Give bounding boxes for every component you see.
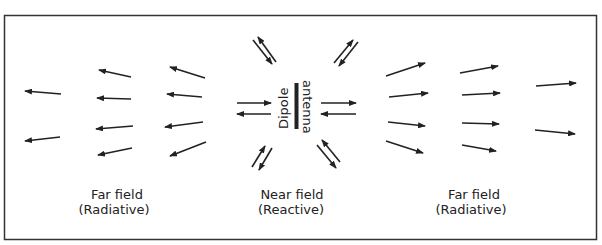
field-arrow-icon — [322, 140, 340, 162]
field-arrow-icon — [97, 98, 131, 99]
field-arrow-icon — [386, 141, 423, 153]
center-region-label: Near field — [260, 187, 323, 202]
field-arrow-icon — [462, 145, 496, 151]
field-arrow-icon — [388, 122, 425, 126]
right-far-field-arrows — [386, 63, 576, 153]
field-arrow-icon — [25, 91, 61, 94]
near-far-field-diagram: Dipole antenna Far field (Radiative) Nea… — [0, 0, 602, 245]
right-region-label: Far field — [448, 187, 500, 202]
field-arrow-icon — [536, 83, 576, 86]
dipole-label: Dipole — [276, 88, 291, 129]
field-arrow-icon — [99, 70, 131, 77]
field-arrow-icon — [165, 122, 203, 127]
antenna-label: antenna — [300, 80, 315, 134]
field-arrow-icon — [98, 148, 132, 155]
left-far-field-arrows — [25, 67, 206, 156]
left-region-label: Far field — [91, 187, 143, 202]
field-arrow-icon — [317, 145, 336, 168]
field-arrow-icon — [389, 93, 428, 97]
field-arrow-icon — [167, 94, 202, 97]
field-arrow-icon — [462, 123, 499, 124]
field-arrow-icon — [535, 130, 575, 134]
left-region-sublabel: (Radiative) — [78, 202, 149, 217]
field-arrow-icon — [170, 67, 205, 78]
field-arrow-icon — [462, 93, 500, 95]
field-arrow-icon — [460, 66, 498, 73]
field-arrow-icon — [386, 63, 425, 76]
field-arrow-icon — [170, 142, 206, 156]
field-arrow-icon — [96, 126, 133, 129]
field-arrow-icon — [25, 137, 60, 141]
center-region-sublabel: (Reactive) — [258, 202, 324, 217]
dipole-antenna-bar — [295, 83, 299, 129]
right-region-sublabel: (Radiative) — [435, 202, 506, 217]
